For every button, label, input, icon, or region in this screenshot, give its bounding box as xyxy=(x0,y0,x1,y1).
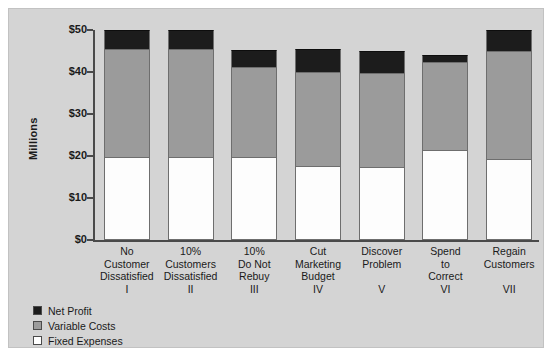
chart-legend: Net ProfitVariable CostsFixed Expenses xyxy=(33,303,213,348)
category-label-line: Cut xyxy=(285,245,351,258)
bar-segment-fixed-expenses xyxy=(231,157,277,240)
x-axis-category-label: DiscoverProblemV xyxy=(349,245,415,295)
legend-swatch-icon xyxy=(33,321,42,330)
bar-segment-variable-costs xyxy=(168,49,214,157)
y-axis-tick-label: $0 xyxy=(75,234,87,245)
legend-item[interactable]: Net Profit xyxy=(33,303,213,318)
x-axis-category-label: SpendtoCorrectVI xyxy=(412,245,478,295)
category-label-line: Discover xyxy=(349,245,415,258)
category-label-line: No xyxy=(94,245,160,258)
bar-segment-variable-costs xyxy=(104,49,150,157)
y-axis-tick-label: $50 xyxy=(69,24,87,35)
bar-stack[interactable] xyxy=(422,55,468,240)
bar-segment-fixed-expenses xyxy=(422,150,468,240)
y-axis-tick-label: $40 xyxy=(69,66,87,77)
bar-stack[interactable] xyxy=(486,30,532,240)
legend-swatch-icon xyxy=(33,306,42,315)
y-axis-tick-label: $20 xyxy=(69,150,87,161)
category-label-line: Dissatisfied xyxy=(94,270,160,283)
category-label-line: Dissatisfied xyxy=(158,270,224,283)
y-axis-tick-label: $10 xyxy=(69,192,87,203)
bar-segment-net-profit xyxy=(231,50,277,67)
y-axis-tick-label: $30 xyxy=(69,108,87,119)
legend-item[interactable]: Variable Costs xyxy=(33,318,213,333)
category-roman-numeral: III xyxy=(221,283,287,296)
x-axis-category-label: RegainCustomersVII xyxy=(476,245,542,295)
bar-segment-net-profit xyxy=(104,30,150,49)
bar-segment-net-profit xyxy=(295,49,341,72)
bar-segment-net-profit xyxy=(486,30,532,51)
category-label-line: Correct xyxy=(412,270,478,283)
legend-label: Net Profit xyxy=(48,305,92,317)
legend-label: Fixed Expenses xyxy=(48,335,123,347)
y-axis-line xyxy=(93,30,95,242)
category-label-line: Spend xyxy=(412,245,478,258)
bar-segment-variable-costs xyxy=(295,72,341,166)
bar-segment-variable-costs xyxy=(422,62,468,151)
category-roman-numeral: I xyxy=(94,283,160,296)
category-label-line: Do Not xyxy=(221,258,287,271)
bar-segment-fixed-expenses xyxy=(104,157,150,240)
bar-segment-net-profit xyxy=(168,30,214,49)
category-label-line: Problem xyxy=(349,258,415,271)
category-roman-numeral: II xyxy=(158,283,224,296)
y-axis-tick xyxy=(87,29,93,31)
bar-stack[interactable] xyxy=(104,30,150,240)
bar-stack[interactable] xyxy=(295,49,341,240)
y-axis-tick xyxy=(87,155,93,157)
category-roman-numeral: V xyxy=(349,283,415,296)
category-label-line: to xyxy=(412,258,478,271)
category-roman-numeral: VII xyxy=(476,283,542,296)
category-label-line: Customers xyxy=(158,258,224,271)
y-axis-tick xyxy=(87,71,93,73)
bar-segment-variable-costs xyxy=(486,51,532,159)
x-axis-category-label: 10%CustomersDissatisfiedII xyxy=(158,245,224,295)
category-label-line: Marketing xyxy=(285,258,351,271)
category-roman-numeral: IV xyxy=(285,283,351,296)
x-axis-category-label: CutMarketingBudgetIV xyxy=(285,245,351,295)
bar-segment-fixed-expenses xyxy=(295,166,341,240)
chart-figure: Millions $0$10$20$30$40$50 NoCustomerDis… xyxy=(8,8,544,348)
legend-label: Variable Costs xyxy=(48,320,116,332)
y-axis-tick-labels: $0$10$20$30$40$50 xyxy=(49,30,87,242)
bar-segment-variable-costs xyxy=(231,67,277,158)
category-label-line: 10% xyxy=(221,245,287,258)
category-label-line: Budget xyxy=(285,270,351,283)
bar-segment-net-profit xyxy=(359,51,405,73)
bar-segment-fixed-expenses xyxy=(486,159,532,240)
x-axis-category-label: 10%Do NotRebuyIII xyxy=(221,245,287,295)
bar-segment-variable-costs xyxy=(359,73,405,166)
y-axis-title: Millions xyxy=(27,104,41,174)
bar-stack[interactable] xyxy=(231,50,277,240)
bar-stack[interactable] xyxy=(359,51,405,240)
bar-stack[interactable] xyxy=(168,30,214,240)
x-axis-category-labels: NoCustomerDissatisfiedI10%CustomersDissa… xyxy=(93,245,539,301)
category-label-line: Customers xyxy=(476,258,542,271)
y-axis-tick xyxy=(87,239,93,241)
category-label-line: 10% xyxy=(158,245,224,258)
legend-swatch-icon xyxy=(33,336,42,345)
category-roman-numeral: VI xyxy=(412,283,478,296)
bar-segment-fixed-expenses xyxy=(168,157,214,240)
category-label-line: Regain xyxy=(476,245,542,258)
y-axis-tick xyxy=(87,197,93,199)
category-label-line: Customer xyxy=(94,258,160,271)
x-axis-line xyxy=(93,240,539,242)
legend-item[interactable]: Fixed Expenses xyxy=(33,333,213,348)
y-axis-tick xyxy=(87,113,93,115)
bar-segment-fixed-expenses xyxy=(359,167,405,241)
x-axis-category-label: NoCustomerDissatisfiedI xyxy=(94,245,160,295)
category-label-line: Rebuy xyxy=(221,270,287,283)
plot-area xyxy=(93,30,539,242)
